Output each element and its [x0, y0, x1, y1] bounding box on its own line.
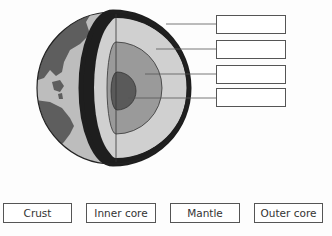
word-outer-core[interactable]: Outer core [254, 203, 323, 223]
word-crust[interactable]: Crust [3, 203, 72, 223]
answer-box-4[interactable] [216, 88, 286, 107]
earth-diagram [0, 0, 332, 236]
answer-box-2[interactable] [216, 40, 286, 59]
word-inner-core[interactable]: Inner core [86, 203, 156, 223]
word-mantle[interactable]: Mantle [170, 203, 240, 223]
answer-box-3[interactable] [216, 65, 286, 84]
answer-box-1[interactable] [216, 15, 286, 34]
